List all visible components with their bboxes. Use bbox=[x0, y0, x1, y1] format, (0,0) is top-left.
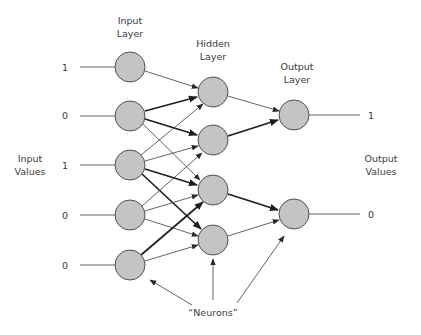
edge-i3-h2 bbox=[145, 146, 198, 161]
output-value-1: 1 bbox=[368, 110, 374, 121]
input-values-line2: Values bbox=[14, 166, 45, 177]
edge-i3-h3 bbox=[145, 169, 197, 185]
edge-i4-h3 bbox=[145, 195, 198, 211]
edges-input-hidden bbox=[141, 71, 203, 261]
edge-h3-o2 bbox=[228, 194, 278, 210]
annotation-arrow-output bbox=[237, 236, 284, 303]
input-values-label: Input Values bbox=[14, 153, 45, 177]
hidden-neuron-3 bbox=[198, 175, 228, 205]
edge-i2-h2 bbox=[145, 119, 197, 135]
edge-i5-h3 bbox=[141, 202, 203, 255]
edge-i4-h2 bbox=[142, 153, 202, 206]
input-layer-title: Input Layer bbox=[117, 15, 144, 39]
output-values-line1: Output bbox=[365, 153, 398, 164]
hidden-neuron-2 bbox=[198, 125, 228, 155]
output-neuron-1 bbox=[279, 100, 309, 130]
input-values-line1: Input bbox=[18, 153, 43, 164]
edge-i1-h1 bbox=[145, 71, 198, 88]
hidden-layer-title-line2: Layer bbox=[200, 51, 227, 62]
hidden-layer-title: Hidden Layer bbox=[196, 38, 230, 62]
input-value-5: 0 bbox=[62, 260, 68, 271]
output-layer-title-line1: Output bbox=[281, 61, 314, 72]
input-layer-title-line2: Layer bbox=[117, 28, 144, 39]
hidden-neuron-1 bbox=[198, 77, 228, 107]
hidden-layer-title-line1: Hidden bbox=[196, 38, 230, 49]
hidden-neuron-4 bbox=[198, 225, 228, 255]
edge-h1-o1 bbox=[228, 96, 279, 111]
output-values-line2: Values bbox=[365, 166, 396, 177]
annotation-arrow-input bbox=[150, 280, 192, 305]
output-values: 1 0 bbox=[309, 110, 374, 220]
output-layer-title: Output Layer bbox=[281, 61, 314, 85]
input-neuron-2 bbox=[115, 101, 145, 131]
output-layer bbox=[279, 100, 309, 229]
output-neuron-2 bbox=[279, 199, 309, 229]
input-value-3: 1 bbox=[62, 160, 68, 171]
hidden-layer bbox=[198, 77, 228, 255]
input-neuron-5 bbox=[115, 250, 145, 280]
input-value-4: 0 bbox=[62, 210, 68, 221]
edge-h4-o2 bbox=[228, 220, 279, 236]
output-values-label: Output Values bbox=[365, 153, 398, 177]
input-layer bbox=[115, 52, 145, 280]
output-layer-title-line2: Layer bbox=[284, 74, 311, 85]
edge-i2-h1 bbox=[145, 97, 197, 111]
input-layer-title-line1: Input bbox=[118, 15, 143, 26]
edges-hidden-output bbox=[228, 96, 279, 236]
edge-h2-o1 bbox=[228, 120, 278, 136]
input-neuron-3 bbox=[115, 150, 145, 180]
output-value-2: 0 bbox=[368, 209, 374, 220]
input-neuron-1 bbox=[115, 52, 145, 82]
input-value-1: 1 bbox=[62, 62, 68, 73]
edge-i5-h4 bbox=[145, 245, 198, 261]
edge-i4-h4 bbox=[145, 219, 198, 236]
input-neuron-4 bbox=[115, 200, 145, 230]
neural-network-diagram: Input Layer Hidden Layer Output Layer In… bbox=[0, 0, 421, 335]
neurons-label: “Neurons” bbox=[188, 307, 237, 318]
input-values: 1 0 1 0 0 bbox=[62, 62, 115, 271]
input-value-2: 0 bbox=[62, 110, 68, 121]
